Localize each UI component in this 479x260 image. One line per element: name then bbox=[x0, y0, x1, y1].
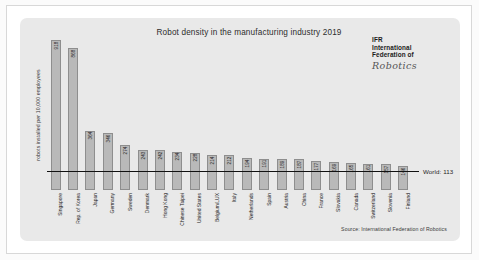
category-tick-label: China bbox=[302, 193, 307, 206]
category-tick: Denmark bbox=[134, 192, 151, 236]
bar-value-label: 191 bbox=[262, 160, 267, 168]
category-tick: Singapore bbox=[47, 192, 64, 236]
bar: 918 bbox=[51, 40, 61, 190]
chart-panel: Robot density in the manufacturing indus… bbox=[20, 18, 460, 241]
y-axis-label-text: robots installed per 10,000 employees bbox=[35, 69, 41, 160]
bar-value-label: 346 bbox=[105, 135, 110, 143]
category-tick-label: Chinese Taipei bbox=[180, 193, 185, 226]
category-tick: China bbox=[290, 192, 307, 236]
bar: 194 bbox=[242, 158, 252, 190]
category-tick: Italy bbox=[221, 192, 238, 236]
source-note: Source: International Federation of Robo… bbox=[341, 226, 447, 232]
bar-value-label: 189 bbox=[279, 160, 284, 168]
bar: 165 bbox=[346, 163, 356, 190]
category-tick-label: Sweden bbox=[128, 193, 133, 211]
category-tick-label: Spain bbox=[267, 193, 272, 206]
category-tick: Belgium/LUX bbox=[203, 192, 220, 236]
category-tick-label: Rep. of Korea bbox=[76, 193, 81, 224]
bar-value-label: 274 bbox=[123, 146, 128, 154]
category-tick: United States bbox=[186, 192, 203, 236]
bar-value-label: 918 bbox=[53, 41, 58, 49]
bar-value-label: 242 bbox=[157, 152, 162, 160]
bar-value-label: 243 bbox=[140, 151, 145, 159]
category-tick-label: Austria bbox=[284, 193, 289, 209]
category-tick-label: Slovenia bbox=[388, 193, 393, 212]
bar-slot: 918 bbox=[47, 40, 64, 190]
category-tick: Netherlands bbox=[238, 192, 255, 236]
bar: 177 bbox=[311, 161, 321, 190]
category-tick: Japan bbox=[82, 192, 99, 236]
category-tick: France bbox=[308, 192, 325, 236]
bar: 191 bbox=[259, 159, 269, 190]
bar-slot: 157 bbox=[377, 40, 394, 190]
bar-series: 9188683643462742432422342282142121941911… bbox=[47, 40, 412, 190]
bar-slot: 234 bbox=[169, 40, 186, 190]
category-tick: Rep. of Korea bbox=[64, 192, 81, 236]
bar: 868 bbox=[68, 48, 78, 190]
chart-page: Robot density in the manufacturing indus… bbox=[0, 0, 479, 260]
plot-area: 9188683643462742432422342282142121941911… bbox=[47, 40, 412, 190]
bar-slot: 177 bbox=[308, 40, 325, 190]
category-tick-label: Switzerland bbox=[371, 193, 376, 219]
world-average-label: World: 113 bbox=[423, 168, 453, 175]
category-tick-label: Slovakia bbox=[336, 193, 341, 212]
bar-value-label: 157 bbox=[383, 165, 388, 173]
category-tick: Germany bbox=[99, 192, 116, 236]
bar-slot: 868 bbox=[64, 40, 81, 190]
bar-slot: 187 bbox=[290, 40, 307, 190]
bar-slot: 194 bbox=[238, 40, 255, 190]
bar: 169 bbox=[329, 162, 339, 190]
bar-slot: 346 bbox=[99, 40, 116, 190]
category-tick: Hong Kong bbox=[151, 192, 168, 236]
category-tick: Spain bbox=[256, 192, 273, 236]
bar-value-label: 868 bbox=[71, 49, 76, 57]
category-tick-label: Belgium/LUX bbox=[215, 193, 220, 222]
bar-slot: 242 bbox=[151, 40, 168, 190]
bar: 274 bbox=[120, 145, 130, 190]
bar-slot: 169 bbox=[325, 40, 342, 190]
bar-value-label: 212 bbox=[227, 156, 232, 164]
category-tick-label: Netherlands bbox=[249, 193, 254, 220]
category-tick-label: Italy bbox=[232, 193, 237, 202]
bar: 187 bbox=[294, 159, 304, 190]
category-tick-label: Japan bbox=[93, 193, 98, 207]
bar-value-label: 194 bbox=[244, 159, 249, 167]
category-tick-label: Singapore bbox=[58, 193, 63, 216]
category-tick-label: United States bbox=[197, 193, 202, 223]
bar: 346 bbox=[103, 133, 113, 190]
bar: 212 bbox=[224, 155, 234, 190]
category-tick-label: Hong Kong bbox=[163, 193, 168, 218]
bar-value-label: 228 bbox=[192, 154, 197, 162]
bar: 157 bbox=[381, 164, 391, 190]
world-average-line bbox=[47, 171, 419, 172]
bar-value-label: 364 bbox=[88, 132, 93, 140]
category-tick-label: Finland bbox=[406, 193, 411, 209]
bar-value-label: 187 bbox=[296, 161, 301, 169]
y-axis-label: robots installed per 10,000 employees bbox=[32, 40, 44, 190]
category-tick-label: Germany bbox=[110, 193, 115, 213]
bar-slot: 364 bbox=[82, 40, 99, 190]
bar-slot: 214 bbox=[203, 40, 220, 190]
bar-slot: 146 bbox=[395, 40, 412, 190]
category-tick-label: France bbox=[319, 193, 324, 209]
category-tick: Chinese Taipei bbox=[169, 192, 186, 236]
bar-slot: 189 bbox=[273, 40, 290, 190]
bar-value-label: 214 bbox=[210, 156, 215, 164]
bar-slot: 228 bbox=[186, 40, 203, 190]
bar-slot: 165 bbox=[342, 40, 359, 190]
bar: 214 bbox=[207, 155, 217, 190]
category-tick: Slovakia bbox=[325, 192, 342, 236]
bar-value-label: 177 bbox=[314, 162, 319, 170]
category-tick-label: Denmark bbox=[145, 193, 150, 213]
bar: 161 bbox=[363, 164, 373, 190]
bar: 364 bbox=[85, 131, 95, 190]
bar-slot: 191 bbox=[256, 40, 273, 190]
category-tick-label: Canada bbox=[354, 193, 359, 210]
category-tick: Austria bbox=[273, 192, 290, 236]
bar-slot: 243 bbox=[134, 40, 151, 190]
bar-slot: 274 bbox=[117, 40, 134, 190]
category-tick: Sweden bbox=[117, 192, 134, 236]
bar-slot: 212 bbox=[221, 40, 238, 190]
bar-value-label: 234 bbox=[175, 153, 180, 161]
bar-slot: 161 bbox=[360, 40, 377, 190]
